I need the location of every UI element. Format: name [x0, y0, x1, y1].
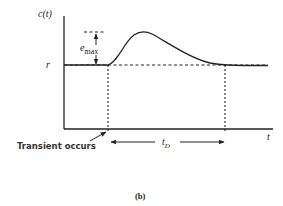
duration-label: tD [162, 136, 170, 150]
transient-label: Transient occurs [17, 141, 96, 151]
baseline-label: r [46, 59, 50, 70]
figure-caption: (b) [135, 191, 146, 201]
peak-label: emax [80, 42, 98, 56]
response-diagram: c(t) r emax t Transient occurs tD (b) [0, 0, 283, 206]
y-axis-label: c(t) [38, 8, 53, 20]
transient-pointer-arrow [90, 132, 106, 141]
x-axis-label: t [267, 131, 270, 142]
